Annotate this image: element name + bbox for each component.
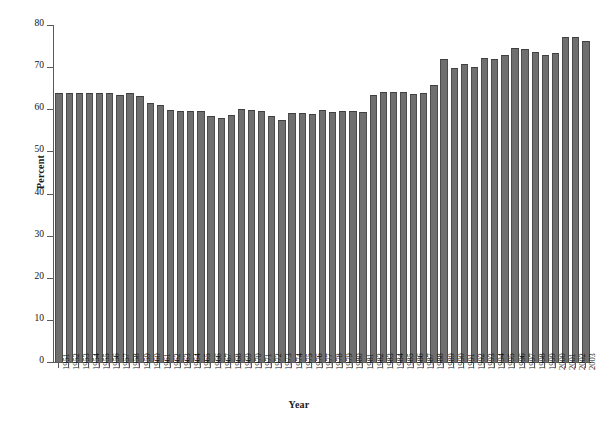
x-axis-tick: [514, 363, 515, 368]
x-axis-tick-label: 1976: [315, 353, 324, 370]
x-axis-tick-label: 1985: [406, 353, 415, 370]
y-axis-tick-label: 30: [14, 229, 44, 239]
bar: [207, 116, 214, 362]
x-axis-tick: [88, 363, 89, 368]
x-axis-tick-label: 1965: [203, 353, 212, 370]
x-axis-tick: [433, 363, 434, 368]
x-axis-tick: [423, 363, 424, 368]
bar: [96, 93, 103, 362]
bar: [532, 52, 539, 362]
x-axis-tick: [575, 363, 576, 368]
bar: [451, 68, 458, 362]
x-axis-tick-label: 1996: [518, 353, 527, 370]
x-axis-tick-label: 1957: [122, 353, 131, 370]
bar: [177, 111, 184, 362]
x-axis-tick: [119, 363, 120, 368]
bar: [278, 120, 285, 362]
x-axis-tick: [524, 363, 525, 368]
x-axis-tick: [190, 363, 191, 368]
x-axis-tick-label: 1988: [436, 353, 445, 370]
bar-series: [54, 20, 591, 363]
x-axis-tick-label: 1970: [254, 353, 263, 370]
y-axis-tick: 80: [47, 25, 53, 26]
x-axis-tick-label: 1964: [193, 353, 202, 370]
x-axis-tick: [544, 363, 545, 368]
x-axis-tick-label: 1971: [264, 353, 273, 370]
x-axis-title: Year: [0, 399, 598, 410]
y-axis-tick: 0: [47, 362, 53, 363]
x-axis-tick: [240, 363, 241, 368]
x-axis-tick-label: 1986: [416, 353, 425, 370]
y-axis-tick: 60: [47, 109, 53, 110]
bar: [481, 58, 488, 362]
x-axis-tick-label: 1981: [366, 353, 375, 370]
x-axis-tick-label: 1955: [102, 353, 111, 370]
x-axis-tick-label: 1956: [112, 353, 121, 370]
x-axis-tick: [352, 363, 353, 368]
x-axis-tick: [281, 363, 282, 368]
x-axis-tick-label: 1962: [173, 353, 182, 370]
x-axis-tick-label: 1983: [386, 353, 395, 370]
bar: [147, 103, 154, 362]
x-axis-tick-label: 1990: [457, 353, 466, 370]
x-axis-tick-label: 1968: [234, 353, 243, 370]
x-axis-tick: [170, 363, 171, 368]
y-axis-tick: 40: [47, 194, 53, 195]
x-axis-tick: [271, 363, 272, 368]
x-axis-tick: [362, 363, 363, 368]
x-axis-tick-label: 2001: [568, 353, 577, 370]
x-axis-tick: [392, 363, 393, 368]
bar: [511, 48, 518, 362]
x-axis-tick: [332, 363, 333, 368]
x-axis-tick: [301, 363, 302, 368]
bar: [440, 59, 447, 362]
x-axis-tick: [159, 363, 160, 368]
x-axis-tick-label: 1961: [163, 353, 172, 370]
x-axis-tick: [109, 363, 110, 368]
x-axis-tick: [565, 363, 566, 368]
x-axis-tick-label: 1951: [62, 353, 71, 370]
y-axis-tick-label: 10: [14, 313, 44, 323]
bar: [258, 111, 265, 362]
x-axis-tick: [200, 363, 201, 368]
x-axis-tick: [68, 363, 69, 368]
x-axis-tick: [473, 363, 474, 368]
x-axis-tick: [180, 363, 181, 368]
x-axis-tick-label: 1953: [82, 353, 91, 370]
bar: [420, 93, 427, 362]
x-axis-tick-label: 1972: [274, 353, 283, 370]
x-axis-tick-label: 2002: [578, 353, 587, 370]
x-axis-tick-label: 1973: [284, 353, 293, 370]
y-axis-tick-label: 20: [14, 271, 44, 281]
x-axis-tick-label: 2003: [588, 353, 597, 370]
x-axis-tick-label: 1980: [355, 353, 364, 370]
y-axis-tick-label: 50: [14, 144, 44, 154]
x-axis-tick-label: 1982: [376, 353, 385, 370]
x-axis-tick: [443, 363, 444, 368]
bar: [86, 93, 93, 362]
x-axis-tick-label: 1989: [447, 353, 456, 370]
bar: [167, 110, 174, 362]
x-axis-tick: [413, 363, 414, 368]
x-axis-tick: [210, 363, 211, 368]
x-axis-tick: [504, 363, 505, 368]
bar: [126, 93, 133, 362]
bar: [471, 67, 478, 362]
x-axis-tick-label: 1984: [396, 353, 405, 370]
bar: [228, 115, 235, 362]
bar: [521, 49, 528, 362]
x-axis-tick: [99, 363, 100, 368]
bar: [339, 111, 346, 362]
x-axis-tick-label: 1959: [143, 353, 152, 370]
x-axis-tick-label: 1974: [295, 353, 304, 370]
x-axis-tick: [251, 363, 252, 368]
x-axis-tick: [261, 363, 262, 368]
bar: [359, 112, 366, 362]
x-axis-tick: [534, 363, 535, 368]
x-axis-tick-label: 1967: [224, 353, 233, 370]
x-axis-tick: [220, 363, 221, 368]
x-axis-tick-label: 1979: [345, 353, 354, 370]
bar: [238, 109, 245, 362]
x-axis-tick-label: 1966: [214, 353, 223, 370]
bar: [572, 37, 579, 362]
